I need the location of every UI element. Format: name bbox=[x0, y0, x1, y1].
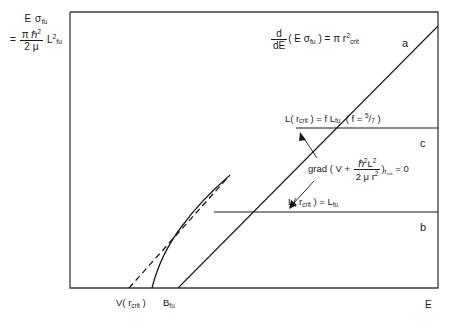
equation-b: L( rcrit ) = Lfu bbox=[288, 197, 338, 209]
axis-frame bbox=[70, 12, 438, 288]
curve-label-b: b bbox=[420, 222, 426, 234]
y-label-fraction: π ℏ2 2 μ bbox=[20, 28, 43, 52]
curve-threshold bbox=[152, 176, 229, 288]
equation-a: d dE ( E σfu ) = π r2crit bbox=[270, 28, 359, 51]
y-label-sub: fu bbox=[42, 18, 48, 25]
label-b-fu: Bfu bbox=[163, 298, 175, 310]
derivative-fraction: d dE bbox=[271, 28, 287, 51]
y-axis-label-line1: E σfu bbox=[4, 14, 68, 25]
equation-c: L( rcrit ) = f Lfu ( f = 5/7 ) bbox=[285, 113, 381, 125]
x-axis-label: E bbox=[425, 300, 432, 311]
tangent-dashed bbox=[129, 175, 230, 288]
figure-container: E σfu = π ℏ2 2 μ L2fu d dE ( E σfu ) = π… bbox=[0, 0, 471, 328]
label-v-rcrit: V( rcrit ) bbox=[116, 298, 146, 310]
equation-grad: grad ( V + ℏ2L2 2 μ r2 )rcrit = 0 bbox=[308, 157, 409, 182]
y-axis-label: E σfu = π ℏ2 2 μ L2fu bbox=[4, 14, 68, 52]
grad-fraction: ℏ2L2 2 μ r2 bbox=[354, 157, 381, 182]
curve-label-a: a bbox=[402, 38, 408, 50]
arrow-to-line-c-head bbox=[299, 132, 306, 141]
y-axis-label-line2: = π ℏ2 2 μ L2fu bbox=[4, 28, 68, 52]
curve-label-c: c bbox=[420, 138, 426, 150]
